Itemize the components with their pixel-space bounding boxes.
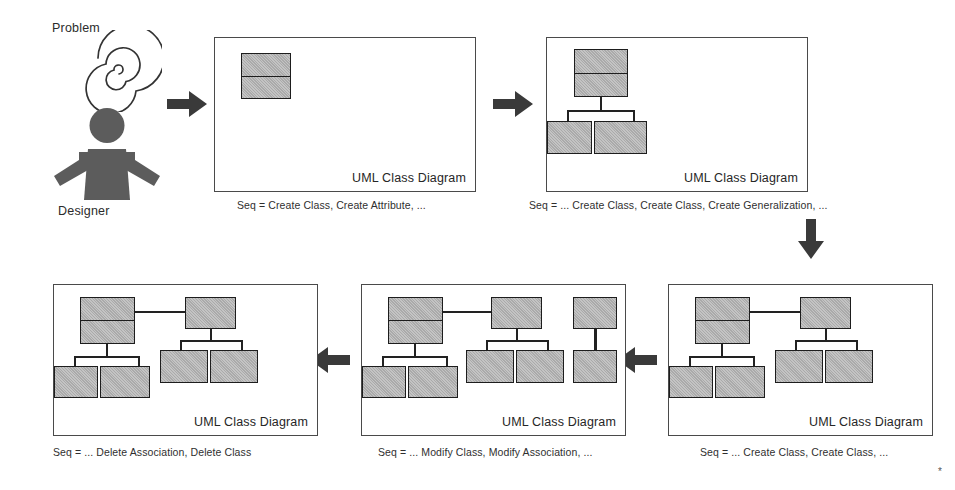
panel-title: UML Class Diagram (502, 415, 616, 429)
uml-class-child (210, 350, 258, 383)
uml-class-parent (574, 49, 628, 97)
uml-class-child (100, 366, 150, 398)
class-compartment-divider (696, 320, 749, 321)
association-line (443, 311, 493, 313)
uml-class-child (466, 350, 514, 383)
generalization-bar (180, 340, 242, 342)
arrow-down-icon-step2-to-step3 (798, 219, 824, 259)
panel-step-2: UML Class Diagram (546, 37, 808, 192)
uml-class-parent (491, 297, 542, 329)
person-icon (48, 108, 166, 200)
uml-class-child (160, 350, 208, 383)
caption-step-4: Seq = ... Modify Class, Modify Associati… (378, 446, 593, 458)
association-line (750, 311, 802, 313)
uml-class-child (54, 366, 98, 398)
spiral-icon (70, 30, 162, 112)
uml-class-extra-top (573, 297, 617, 329)
caption-step-3: Seq = ... Create Class, Create Class, ..… (700, 446, 888, 458)
uml-class-child (516, 350, 564, 383)
generalization-stem (600, 97, 602, 111)
caption-step-1: Seq = Create Class, Create Attribute, ..… (237, 199, 426, 211)
class-compartment-divider (242, 76, 290, 77)
class-compartment-divider (81, 320, 134, 321)
arrow-right-icon-actor-to-step1 (167, 91, 207, 117)
footnote-mark: * (938, 466, 942, 477)
uml-class-child (594, 121, 647, 154)
caption-step-5: Seq = ... Delete Association, Delete Cla… (53, 446, 251, 458)
uml-class (241, 53, 291, 99)
uml-class-child (408, 366, 458, 398)
uml-class-child (669, 366, 713, 398)
panel-title: UML Class Diagram (809, 415, 923, 429)
class-compartment-divider (389, 320, 442, 321)
uml-class-child (825, 350, 873, 383)
class-compartment-divider (575, 73, 627, 74)
generalization-bar (382, 356, 447, 358)
uml-class-child (547, 121, 592, 154)
panel-title: UML Class Diagram (194, 415, 308, 429)
arrow-right-icon-step1-to-step2 (493, 91, 533, 117)
panel-title: UML Class Diagram (684, 171, 798, 185)
uml-class-child (362, 366, 406, 398)
panel-title: UML Class Diagram (352, 171, 466, 185)
uml-class-parent (185, 297, 236, 329)
generalization-bar (74, 356, 139, 358)
generalization-bar (689, 356, 754, 358)
panel-step-3: UML Class Diagram (668, 284, 933, 436)
uml-class-child (715, 366, 765, 398)
uml-class-parent (695, 297, 750, 344)
generalization-bar (567, 110, 634, 112)
panel-step-4: UML Class Diagram (361, 284, 626, 436)
uml-class-parent (800, 297, 851, 329)
diagram-canvas: Problem Designer UML Class Diagram (0, 0, 955, 490)
association-line (135, 311, 187, 313)
uml-class-extra-bottom (573, 350, 617, 383)
generalization-bar (795, 340, 857, 342)
caption-step-2: Seq = ... Create Class, Create Class, Cr… (529, 199, 828, 211)
uml-class-parent (80, 297, 135, 344)
uml-class-parent (388, 297, 443, 344)
panel-step-1: UML Class Diagram (214, 37, 476, 192)
panel-step-5: UML Class Diagram (53, 284, 318, 436)
generalization-bar (486, 340, 548, 342)
association-line-vertical (595, 329, 597, 350)
designer-label: Designer (58, 204, 110, 218)
uml-class-child (775, 350, 823, 383)
